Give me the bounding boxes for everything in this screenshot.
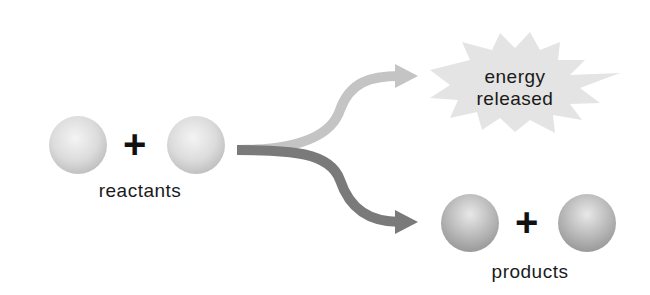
energy-line2: released (460, 88, 570, 110)
diagram-graphics (0, 0, 650, 295)
reaction-diagram: + reactants energy released + products (0, 0, 650, 295)
product-sphere-1 (441, 194, 499, 252)
products-plus: + (515, 202, 538, 242)
energy-arrow (237, 76, 400, 150)
energy-line1: energy (460, 66, 570, 88)
reactant-sphere-1 (49, 116, 107, 174)
energy-released-label: energy released (460, 66, 570, 110)
reactants-label: reactants (80, 180, 200, 202)
energy-arrowhead (395, 64, 418, 88)
product-sphere-2 (558, 194, 616, 252)
product-arrow (237, 150, 400, 222)
reactant-sphere-2 (167, 116, 225, 174)
reactants-plus: + (123, 124, 146, 164)
products-label: products (470, 261, 590, 283)
product-arrowhead (395, 210, 418, 234)
